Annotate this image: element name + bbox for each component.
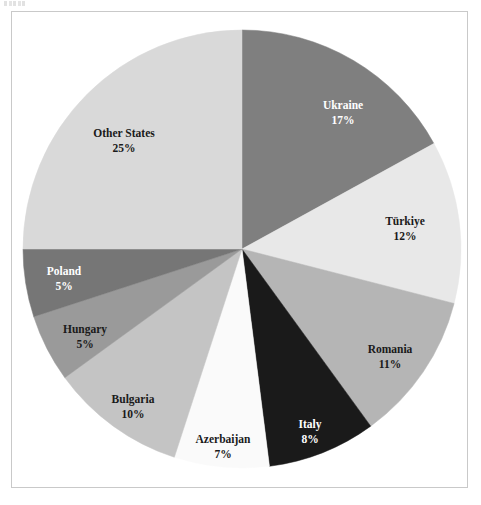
slice-value-other-states: 25%	[113, 142, 136, 154]
slice-value-hungary: 5%	[76, 338, 93, 350]
slice-label-bulgaria: Bulgaria	[112, 393, 155, 406]
slice-value-romania: 11%	[379, 358, 401, 370]
slice-label-italy: Italy	[299, 418, 322, 431]
pie-slice-other-states[interactable]	[23, 30, 242, 249]
slice-value-bulgaria: 10%	[122, 408, 145, 420]
slice-value-poland: 5%	[55, 280, 72, 292]
pie-slices-group	[23, 30, 461, 468]
slice-value-azerbaijan: 7%	[214, 448, 231, 460]
pie-chart-svg: Ukraine17%Türkiye12%Romania11%Italy8%Aze…	[0, 0, 481, 505]
slice-label-hungary: Hungary	[63, 323, 107, 336]
pie-chart: Ukraine17%Türkiye12%Romania11%Italy8%Aze…	[0, 0, 481, 505]
slice-label-romania: Romania	[368, 343, 413, 355]
slice-value-ukraine: 17%	[332, 114, 355, 126]
slice-value-türkiye: 12%	[394, 230, 417, 242]
slice-value-italy: 8%	[301, 433, 318, 445]
slice-label-ukraine: Ukraine	[323, 99, 363, 111]
slice-label-azerbaijan: Azerbaijan	[196, 433, 252, 446]
slice-label-türkiye: Türkiye	[385, 215, 425, 228]
slice-label-poland: Poland	[47, 265, 82, 277]
slice-label-other-states: Other States	[93, 127, 155, 139]
